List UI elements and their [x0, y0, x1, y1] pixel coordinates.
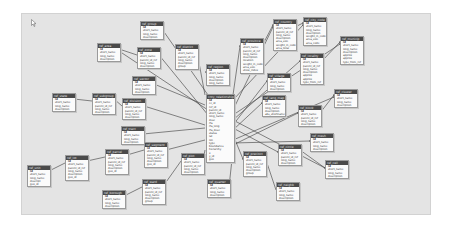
table-field: description: [138, 65, 160, 68]
table-ref-group[interactable]: ref_groupidshort_namelong_namedescriptio…: [140, 21, 164, 40]
table-field: description: [93, 111, 115, 114]
table-field: group: [244, 172, 266, 175]
table-ref-lang-map[interactable]: ref_lang_mapidshort_namelong_namedescrip…: [262, 95, 286, 117]
table-ref-quarter[interactable]: ref_quarteridshort_namelong_namedescript…: [207, 179, 231, 198]
table-ref-cell[interactable]: ref_cellidshort_namelong_namedescription: [325, 160, 349, 179]
table-field: description: [208, 194, 230, 197]
table-field: description: [133, 91, 155, 94]
table-ref-division[interactable]: ref_divisionidshort_nameparent_id_reflon…: [122, 98, 146, 120]
table-ref-sector[interactable]: ref_sectoridshort_namelong_namedescripti…: [132, 76, 156, 95]
table-ref-block[interactable]: ref_blockidshort_nameparent_id_reflong_n…: [298, 105, 322, 127]
table-ref-unit[interactable]: ref_unitidshort_namelong_namedescriptgeo…: [27, 165, 51, 187]
table-ref-tract[interactable]: ref_tractidshort_namelong_namedescriptio…: [121, 126, 145, 145]
table-ref-ward[interactable]: ref_wardidshort_nameparent_id_reflong_na…: [142, 179, 166, 205]
table-field: description: [53, 108, 75, 111]
table-field: description: [299, 123, 321, 126]
table-field: type_from_ref: [341, 61, 363, 64]
table-field: description: [182, 171, 204, 174]
table-ref-locality[interactable]: ref_localityidshort_nameparent_id_reflon…: [300, 53, 324, 85]
table-field: long_name: [207, 82, 229, 85]
table-ref-lot[interactable]: ref_lotidshort_nameparent_id_reflong_nam…: [65, 155, 89, 181]
table-field: type_from_ref: [301, 81, 323, 84]
table-field: geo_id: [66, 176, 88, 179]
table-field: description: [141, 36, 163, 39]
table-ref-municip[interactable]: ref_municipidshort_namelong_namedescript…: [340, 36, 364, 65]
table-field: area_code: [304, 42, 326, 45]
table-ref-province[interactable]: ref_provinceidshort_nameparent_id_reflon…: [240, 38, 264, 74]
table-ref-district[interactable]: ref_districtidshort_nameparent_id_reflon…: [175, 44, 199, 70]
table-ref-neighb[interactable]: ref_neighbidshort_namelong_namedescripti…: [276, 182, 300, 201]
table-field: group: [176, 65, 198, 68]
table-field: description: [122, 141, 144, 144]
table-ref-parcel[interactable]: ref_parcelidshort_nameparent_id_reflong_…: [105, 149, 129, 175]
table-ref-cluster[interactable]: ref_clusteridshort_namelong_namedescript…: [334, 89, 358, 108]
table-ref-plot[interactable]: ref_plotidshort_nameparent_id_reflong_na…: [181, 153, 205, 175]
table-field: description: [103, 205, 125, 208]
table-ref-borough[interactable]: ref_boroughidshort_namelong_namedescript…: [102, 190, 126, 209]
mouse-cursor-icon: [31, 19, 37, 27]
table-field: geo: [207, 158, 234, 161]
table-ref-state[interactable]: ref_stateidshort_namelong_namedescriptio…: [52, 93, 76, 112]
table-field: geo_id: [106, 170, 128, 173]
table-field: description: [98, 58, 120, 61]
table-ref-circle[interactable]: ref_circleidshort_nameparent_id_reflong_…: [278, 144, 302, 166]
table-fields: idcc_idref_idparent_idshort_namelong_nam…: [207, 99, 234, 162]
table-field: description: [277, 197, 299, 200]
table-ref-city-code[interactable]: ref_city_codeidshort_namelong_namedescri…: [303, 17, 327, 46]
table-field: description: [335, 104, 357, 107]
table-field: description: [268, 88, 290, 91]
table-ref-segment[interactable]: ref_segmentidshort_nameparent_id_reflong…: [144, 142, 168, 168]
table-field: area_total: [274, 47, 296, 50]
table-ref-subgroup[interactable]: ref_subgroupidshort_nameparent_id_reflon…: [92, 93, 116, 115]
table-ref-village[interactable]: ref_villageidshort_namelong_namedescript…: [267, 73, 291, 92]
center-table[interactable]: cnty_relationships idcc_idref_idparent_i…: [206, 94, 235, 163]
table-field: geo_id: [145, 163, 167, 166]
table-field: description: [326, 175, 348, 178]
table-field: description: [279, 162, 301, 165]
table-ref-zone[interactable]: ref_zoneidshort_nameparent_id_reflong_na…: [137, 47, 161, 69]
table-field: description: [123, 116, 145, 119]
table-field: abs_shortname: [263, 113, 285, 116]
table-ref-precinct[interactable]: ref_precinctidshort_nameparent_id_reflon…: [243, 151, 267, 177]
table-field: group: [143, 200, 165, 203]
table-ref-mesh[interactable]: ref_meshidshort_namelong_namedescription: [310, 133, 334, 152]
table-ref-country[interactable]: ref_countryidshort_nameparent_id_reflong…: [273, 19, 297, 51]
table-field: geo_id: [28, 183, 50, 186]
table-field: description: [311, 148, 333, 151]
table-ref-area[interactable]: ref_areaidshort_namelong_namedescription: [97, 43, 121, 62]
table-field: show_index: [241, 69, 263, 72]
table-ref-region[interactable]: ref_regionidshort_namelong_namedescripti…: [206, 64, 230, 86]
